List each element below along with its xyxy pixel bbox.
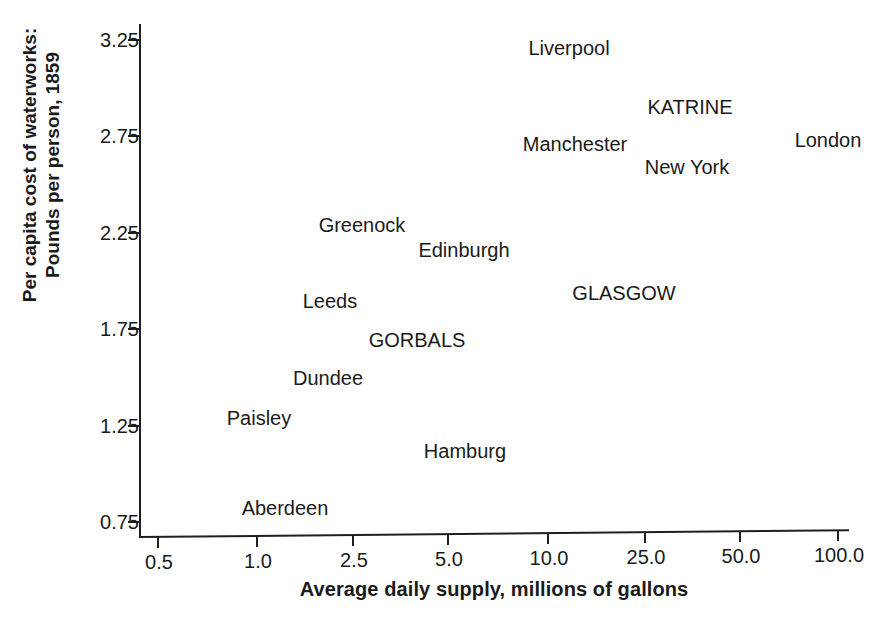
x-axis-tick-label: 0.5 (104, 551, 214, 573)
data-point-label: Dundee (293, 368, 363, 388)
y-axis-tick-label: 1.25 (77, 416, 139, 436)
x-axis-title: Average daily supply, millions of gallon… (139, 578, 849, 601)
data-point-label: Hamburg (424, 441, 506, 461)
x-axis-tick-mark (644, 532, 646, 543)
data-point-label: Aberdeen (242, 498, 329, 518)
y-axis-tick-label: 3.25 (77, 30, 139, 50)
y-axis-tick-label: 1.75 (77, 319, 139, 339)
data-point-label: London (795, 130, 862, 150)
data-point-label: Paisley (227, 408, 291, 428)
x-axis-tick-label: 2.5 (299, 549, 409, 571)
data-point-label: Liverpool (528, 38, 609, 58)
data-point-label: Leeds (303, 291, 358, 311)
data-point-label: GORBALS (369, 330, 466, 350)
y-axis-tick-label: 2.25 (77, 223, 139, 243)
x-axis-tick-label: 50.0 (686, 545, 796, 567)
y-axis-tick-label: 0.75 (77, 512, 139, 532)
data-point-label: Greenock (319, 215, 406, 235)
x-axis-line (139, 529, 849, 538)
x-axis-tick-mark (447, 534, 449, 545)
x-axis-tick-label: 10.0 (494, 547, 604, 569)
scatter-chart-figure: 0.751.251.752.252.753.25 0.51.02.55.010.… (0, 0, 887, 623)
x-axis-tick-mark (352, 535, 354, 546)
y-axis-title-line-2: Pounds per person, 1859 (41, 13, 64, 318)
data-point-label: New York (645, 157, 730, 177)
y-axis-tick-label: 2.75 (77, 126, 139, 146)
y-axis-title: Per capita cost of waterworks: Pounds pe… (18, 13, 64, 318)
x-axis-tick-label: 5.0 (394, 548, 504, 570)
x-axis-tick-mark (256, 536, 258, 547)
data-point-label: Manchester (523, 134, 628, 154)
x-axis-tick-mark (547, 533, 549, 544)
y-axis-line (139, 24, 141, 538)
data-point-label: KATRINE (647, 97, 732, 117)
data-point-label: Edinburgh (418, 240, 509, 260)
data-point-label: GLASGOW (572, 283, 675, 303)
x-axis-tick-mark (837, 530, 839, 541)
y-axis-title-line-1: Per capita cost of waterworks: (18, 13, 41, 318)
x-axis-tick-label: 100.0 (784, 544, 887, 566)
x-axis-tick-label: 25.0 (591, 546, 701, 568)
x-axis-tick-label: 1.0 (203, 550, 313, 572)
x-axis-tick-mark (157, 537, 159, 548)
x-axis-tick-mark (739, 531, 741, 542)
